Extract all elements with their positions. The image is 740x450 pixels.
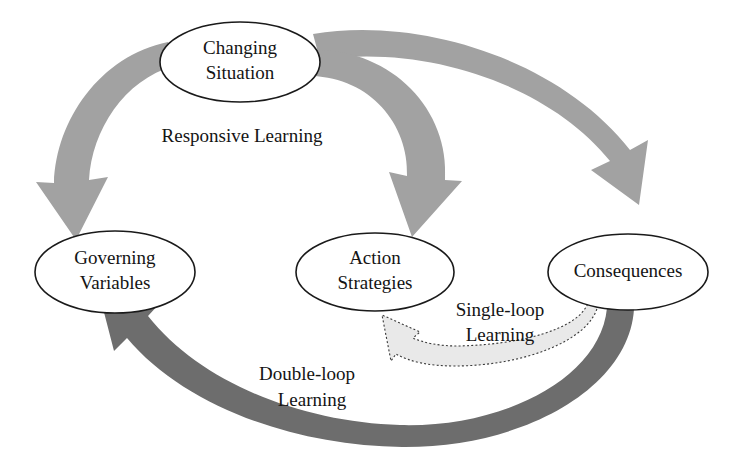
node-consequences[interactable]: Consequences bbox=[548, 234, 708, 310]
edge-label-responsive-learning: Responsive Learning bbox=[162, 125, 323, 146]
learning-loops-diagram: Changing Situation Governing Variables A… bbox=[0, 0, 740, 450]
edge-label-double-loop-learning-line1: Double-loop bbox=[259, 363, 355, 384]
edge-label-single-loop-learning-line2: Learning bbox=[466, 324, 535, 345]
node-changing-situation-label-line1: Changing bbox=[203, 37, 277, 58]
node-changing-situation-label-line2: Situation bbox=[206, 62, 275, 83]
node-governing-variables[interactable]: Governing Variables bbox=[35, 231, 195, 313]
edge-label-responsive-learning-text: Responsive Learning bbox=[162, 125, 323, 146]
edge-label-single-loop-learning: Single-loop Learning bbox=[456, 299, 545, 345]
node-action-strategies-label-line1: Action bbox=[349, 247, 401, 268]
arrow-changing-situation-to-action-strategies bbox=[312, 50, 462, 237]
edge-label-single-loop-learning-line1: Single-loop bbox=[456, 299, 545, 320]
arrow-changing-situation-to-governing-variables bbox=[36, 42, 174, 240]
diagram-canvas: Changing Situation Governing Variables A… bbox=[0, 0, 740, 450]
node-governing-variables-label-line1: Governing bbox=[74, 247, 156, 268]
arrow-consequences-to-governing-variables bbox=[98, 289, 634, 447]
arrow-changing-situation-to-consequences bbox=[313, 30, 648, 205]
node-governing-variables-label-line2: Variables bbox=[80, 272, 151, 293]
node-consequences-label-line1: Consequences bbox=[574, 260, 683, 281]
node-changing-situation[interactable]: Changing Situation bbox=[160, 22, 320, 102]
edge-label-double-loop-learning-line2: Learning bbox=[278, 389, 347, 410]
node-action-strategies-label-line2: Strategies bbox=[338, 272, 413, 293]
node-action-strategies[interactable]: Action Strategies bbox=[296, 233, 454, 311]
